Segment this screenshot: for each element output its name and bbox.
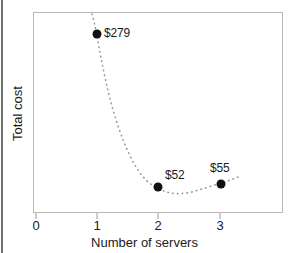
page-edge-rule (1, 0, 3, 253)
x-axis-tick-label: 2 (154, 218, 161, 233)
data-point-marker (93, 30, 102, 39)
y-axis-title: Total cost (10, 84, 25, 144)
data-point-label: $279 (104, 26, 130, 40)
x-axis-tick-label: 0 (32, 218, 39, 233)
total-cost-vs-servers-chart: $279 $52 $55 0 1 2 3 Number of servers T… (0, 0, 289, 253)
data-point-label: $55 (210, 161, 229, 175)
x-axis-title: Number of servers (0, 235, 289, 250)
data-point-label: $52 (165, 168, 184, 182)
data-point-marker (154, 183, 163, 192)
data-point-marker (217, 180, 226, 189)
x-axis-tick-label: 3 (216, 218, 223, 233)
x-axis-tick-label: 1 (93, 218, 100, 233)
